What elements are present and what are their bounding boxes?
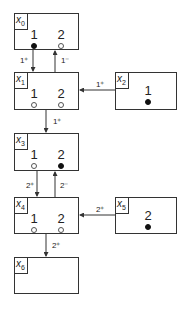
edge-label-x3-x4: 2⁺ — [26, 181, 34, 190]
node-x1: x1 1 2 — [14, 72, 79, 110]
place-2: 2 — [53, 87, 69, 108]
token-empty-icon — [31, 227, 37, 233]
token-filled-icon — [145, 99, 151, 105]
edge-label-x1-x3: 1⁺ — [53, 117, 61, 126]
node-label: x5 — [116, 198, 129, 214]
node-x0: x0 1 2 — [14, 13, 79, 50]
token-empty-icon — [31, 102, 37, 108]
edge-label-x2-x1: 1⁺ — [96, 80, 104, 89]
edge-label-x0-x1: 1⁺ — [20, 56, 28, 65]
place-2: 2 — [53, 212, 69, 233]
token-filled-icon — [31, 43, 37, 49]
node-x3: x3 1 2 — [14, 133, 79, 171]
node-x6: x6 — [14, 257, 79, 294]
place-2: 2 — [53, 28, 69, 49]
node-x5: x5 2 — [115, 197, 177, 234]
node-x4: x4 1 2 — [14, 197, 79, 234]
edge-label-x5-x4: 2⁺ — [96, 205, 104, 214]
node-x2: x2 1 — [115, 72, 177, 110]
place-1: 1 — [140, 84, 156, 105]
place-2: 2 — [53, 148, 69, 169]
token-empty-icon — [58, 102, 64, 108]
place-1: 1 — [26, 212, 42, 233]
node-label: x2 — [116, 73, 129, 89]
token-filled-icon — [145, 224, 151, 230]
node-label: x6 — [15, 258, 28, 274]
edge-label-x1-x0: 1⁻ — [61, 56, 69, 65]
place-1: 1 — [26, 87, 42, 108]
token-filled-icon — [58, 163, 64, 169]
edge-label-x4-x6: 2⁺ — [52, 241, 60, 250]
edge-label-x4-x3: 2⁻ — [60, 181, 68, 190]
token-empty-icon — [58, 43, 64, 49]
token-empty-icon — [31, 163, 37, 169]
place-2: 2 — [140, 209, 156, 230]
token-empty-icon — [58, 227, 64, 233]
place-1: 1 — [26, 28, 42, 49]
place-1: 1 — [26, 148, 42, 169]
